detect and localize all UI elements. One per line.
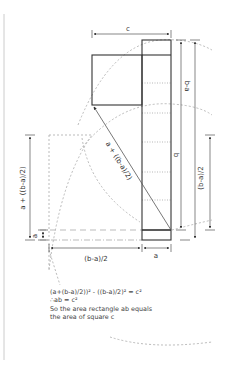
- caption-equation: (a+(b-a)/2))² - ((b-a)/2)² = c²: [50, 288, 220, 296]
- label-c: c: [126, 25, 130, 33]
- label-a-bottom: a: [154, 252, 158, 260]
- label-a-left: a: [31, 234, 39, 238]
- rectangle-ab-strip: [142, 40, 171, 240]
- label-half-b-minus-a-right: (b-a)/2: [197, 166, 205, 190]
- caption-conclusion-1: So the area rectangle ab equals: [50, 305, 220, 313]
- dimension-lines: [25, 30, 215, 252]
- label-half-b-minus-a-bottom: (b-a)/2: [84, 255, 108, 263]
- label-b: b: [172, 153, 180, 158]
- label-b-minus-a: b-a: [183, 80, 191, 91]
- square-c: [92, 55, 142, 105]
- caption-conclusion-2: the area of square c: [50, 313, 220, 321]
- guide-lines: [40, 135, 142, 270]
- caption-therefore: ∴ab = c²: [50, 296, 220, 304]
- proof-caption: (a+(b-a)/2))² - ((b-a)/2)² = c² ∴ab = c²…: [50, 288, 220, 322]
- solid-shapes: [92, 40, 171, 240]
- strip-dotted-lines: [142, 83, 171, 200]
- diagonal-line: [94, 107, 171, 230]
- label-a-plus-half-left: a + ((b-a)/2): [19, 166, 27, 210]
